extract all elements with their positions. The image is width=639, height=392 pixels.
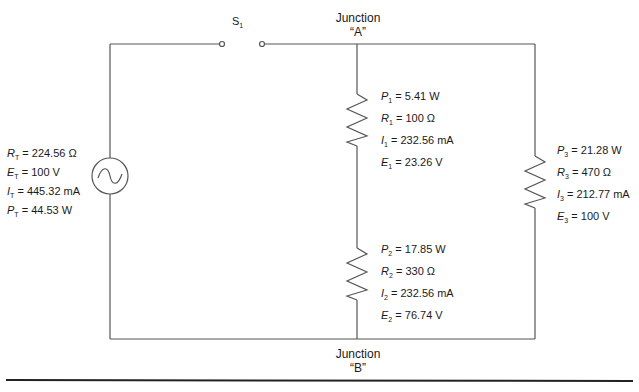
r2-values: P2 = 17.85 W R2 = 330 Ω I2 = 232.56 mA E…: [381, 243, 454, 331]
bottom-rule: [6, 380, 633, 381]
junction-a-line1: Junction: [318, 11, 398, 25]
junction-b-line1: Junction: [318, 347, 398, 361]
r3-r: R3 = 470 Ω: [557, 166, 630, 188]
value: = 445.32 mA: [14, 185, 80, 197]
source-pt: PT = 44.53 W: [7, 204, 80, 223]
sym: R: [381, 265, 389, 277]
value: = 232.56 mA: [388, 134, 454, 146]
value: = 5.41 W: [392, 90, 439, 102]
value: = 21.28 W: [568, 144, 622, 156]
switch-contact-right: [260, 42, 265, 47]
value: = 100 V: [568, 210, 609, 222]
r1-i: I1 = 232.56 mA: [381, 134, 454, 156]
junction-a-label: Junction “A”: [318, 11, 398, 39]
r3-values: P3 = 21.28 W R3 = 470 Ω I3 = 212.77 mA E…: [557, 144, 630, 232]
r2-r: R2 = 330 Ω: [381, 265, 454, 287]
r3-i: I3 = 212.77 mA: [557, 188, 630, 210]
source-values: RT = 224.56 Ω ET = 100 V IT = 445.32 mA …: [7, 147, 80, 223]
r1-r: R1 = 100 Ω: [381, 112, 454, 134]
resistor-r1-icon: [347, 94, 367, 146]
r2-i: I2 = 232.56 mA: [381, 287, 454, 309]
source-rt: RT = 224.56 Ω: [7, 147, 80, 166]
r2-e: E2 = 76.74 V: [381, 309, 454, 331]
value: = 76.74 V: [392, 309, 442, 321]
sym: R: [557, 166, 565, 178]
r2-p: P2 = 17.85 W: [381, 243, 454, 265]
resistor-r2-icon: [347, 248, 367, 300]
value: = 44.53 W: [19, 204, 73, 216]
r1-e: E1 = 23.26 V: [381, 156, 454, 178]
junction-b-label: Junction “B”: [318, 347, 398, 375]
value: = 100 V: [19, 166, 60, 178]
resistor-r3-icon: [525, 156, 545, 208]
sym: R: [7, 147, 15, 159]
switch-sub: 1: [239, 22, 243, 29]
switch-contact-left: [220, 42, 225, 47]
sym: R: [381, 112, 389, 124]
value: = 100 Ω: [393, 112, 435, 124]
r3-p: P3 = 21.28 W: [557, 144, 630, 166]
r3-e: E3 = 100 V: [557, 210, 630, 232]
junction-b-line2: “B”: [318, 361, 398, 375]
value: = 470 Ω: [569, 166, 611, 178]
circuit-schematic: [0, 0, 639, 392]
value: = 224.56 Ω: [19, 147, 76, 159]
value: = 23.26 V: [392, 156, 442, 168]
r1-values: P1 = 5.41 W R1 = 100 Ω I1 = 232.56 mA E1…: [381, 90, 454, 178]
junction-a-line2: “A”: [318, 25, 398, 39]
r1-p: P1 = 5.41 W: [381, 90, 454, 112]
switch-label: S1: [232, 15, 243, 29]
value: = 330 Ω: [393, 265, 435, 277]
value: = 17.85 W: [392, 243, 446, 255]
value: = 232.56 mA: [388, 287, 454, 299]
ac-source-icon: [92, 158, 128, 194]
value: = 212.77 mA: [564, 188, 630, 200]
source-et: ET = 100 V: [7, 166, 80, 185]
source-it: IT = 445.32 mA: [7, 185, 80, 204]
